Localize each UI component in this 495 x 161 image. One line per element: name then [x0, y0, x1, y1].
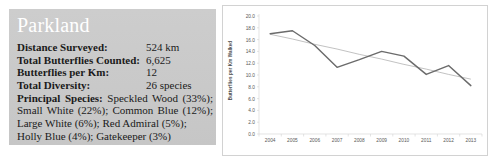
report-page: Parkland Distance Surveyed: 524 km Total…: [0, 0, 495, 161]
principal-species-line-4: Holly Blue (4%); Gatekeeper (3%): [17, 130, 213, 143]
table-row: Butterflies per Km: 12: [17, 66, 213, 79]
table-row: Distance Surveyed: 524 km: [17, 41, 213, 54]
principal-species-line-3: Large White (6%); Red Admiral (5%);: [17, 117, 213, 130]
summary-stats-table: Distance Surveyed: 524 km Total Butterfl…: [17, 41, 213, 91]
stat-value-total-diversity: 26 species: [146, 79, 213, 92]
principal-species-block: Principal Species: Speckled Wood (33%); …: [17, 92, 213, 142]
chart-inner: Butterflies per Km Walked 0.02.04.06.08.…: [223, 6, 487, 155]
principal-species-first-entry: Speckled Wood (33%);: [107, 92, 213, 104]
trend-chart-panel: Butterflies per Km Walked 0.02.04.06.08.…: [222, 5, 488, 156]
page-title: Parkland: [17, 14, 210, 37]
trendline-series: [270, 34, 471, 79]
table-row: Total Diversity: 26 species: [17, 79, 213, 92]
stat-label-total-butterflies-counted: Total Butterflies Counted:: [17, 54, 146, 67]
stat-value-total-butterflies-counted: 6,625: [146, 54, 213, 67]
stat-value-distance-surveyed: 524 km: [146, 41, 213, 54]
stat-label-butterflies-per-km: Butterflies per Km:: [17, 66, 146, 79]
habitat-info-panel: Parkland Distance Surveyed: 524 km Total…: [9, 9, 216, 145]
stat-label-distance-surveyed: Distance Surveyed:: [17, 41, 146, 54]
table-row: Total Butterflies Counted: 6,625: [17, 54, 213, 67]
stat-value-butterflies-per-km: 12: [146, 66, 213, 79]
axis-lines: [259, 14, 482, 134]
butterflies-per-km-series: [270, 31, 471, 86]
chart-plot-area: [223, 6, 489, 157]
principal-species-line-1: Principal Species: Speckled Wood (33%);: [17, 92, 213, 105]
principal-species-heading: Principal Species:: [17, 92, 103, 104]
stat-label-total-diversity: Total Diversity:: [17, 79, 146, 92]
axis-tick-marks: [257, 16, 482, 137]
principal-species-line-2: Small White (22%); Common Blue (12%);: [17, 104, 213, 117]
